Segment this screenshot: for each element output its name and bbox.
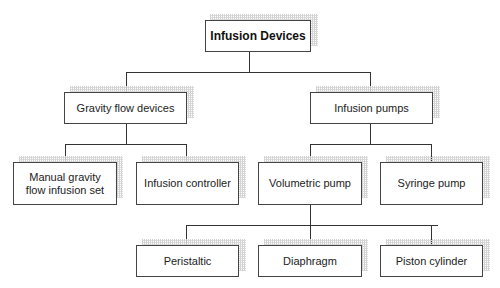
node-piston-cylinder: Piston cylinder xyxy=(380,245,483,277)
node-infusion-controller: Infusion controller xyxy=(136,162,239,205)
node-peristaltic: Peristaltic xyxy=(136,245,239,277)
node-infusion-pumps: Infusion pumps xyxy=(310,92,433,124)
connector-root-down xyxy=(249,52,250,72)
node-syringe-pump: Syringe pump xyxy=(380,162,483,205)
connector-level1-horizontal xyxy=(126,72,371,73)
connector-gravity-horizontal xyxy=(65,144,187,145)
connector-gravity-down xyxy=(126,123,127,144)
infusion-devices-diagram: Infusion Devices Gravity flow devices In… xyxy=(0,0,500,288)
node-manual-gravity-flow-infusion-set: Manual gravity flow infusion set xyxy=(13,162,117,205)
node-diaphragm: Diaphragm xyxy=(258,245,362,277)
connector-pumps-horizontal xyxy=(310,144,432,145)
connector-volumetric-down xyxy=(310,205,311,225)
node-gravity-flow-devices: Gravity flow devices xyxy=(64,92,187,124)
connector-volumetric-horizontal xyxy=(186,225,438,226)
connector-pumps-down xyxy=(370,123,371,144)
node-infusion-devices: Infusion Devices xyxy=(205,20,311,52)
node-volumetric-pump: Volumetric pump xyxy=(258,162,362,205)
